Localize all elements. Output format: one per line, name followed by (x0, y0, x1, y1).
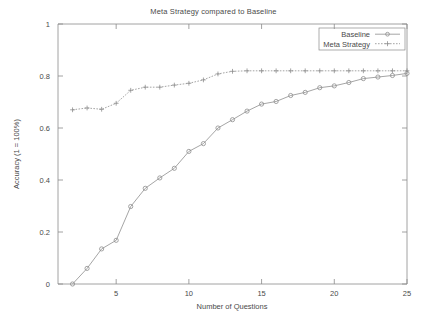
plot-frame (58, 24, 407, 284)
x-tick-label: 25 (403, 289, 411, 298)
x-axis-title: Number of Questions (197, 302, 268, 311)
chart-legend: Baseline Meta Strategy (319, 28, 405, 50)
y-tick-label: 1 (46, 20, 50, 29)
series-meta-strategy (70, 68, 409, 112)
x-axis-ticks: 510152025 (114, 24, 411, 298)
y-axis-title: Accuracy (1 = 100%) (12, 119, 21, 189)
x-tick-label: 15 (257, 289, 265, 298)
y-tick-label: 0.6 (40, 124, 50, 133)
legend-label-baseline: Baseline (341, 30, 370, 39)
y-tick-label: 0.2 (40, 228, 50, 237)
legend-label-meta-strategy: Meta Strategy (323, 40, 370, 49)
y-tick-label: 0.4 (40, 176, 50, 185)
legend-swatch-baseline (375, 32, 400, 36)
y-tick-label: 0 (46, 280, 50, 289)
chart-container: Meta Strategy compared to Baseline 00.20… (0, 0, 427, 319)
y-tick-label: 0.8 (40, 72, 50, 81)
x-tick-label: 5 (114, 289, 118, 298)
legend-swatch-meta-strategy (375, 41, 400, 46)
series-baseline (70, 71, 409, 286)
y-axis-ticks: 00.20.40.60.81 (40, 20, 407, 289)
series-layer (70, 68, 409, 286)
x-tick-label: 10 (185, 289, 193, 298)
x-tick-label: 20 (330, 289, 338, 298)
plot-canvas: 00.20.40.60.81 510152025 Number of Quest… (0, 0, 427, 319)
